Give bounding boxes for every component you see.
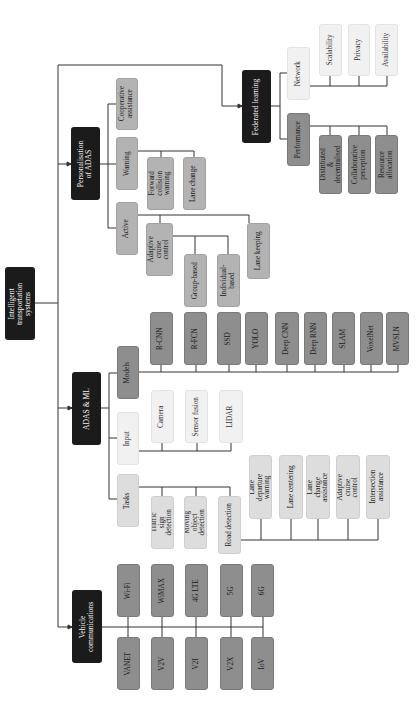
task-moving-object-label: Moving object detection (184, 509, 207, 535)
vehicle-comm-node: Vehicle communications (72, 590, 102, 663)
personalisation-node: Personalisation of ADAS (71, 127, 100, 200)
input-node: Input (117, 412, 139, 465)
comm-iov: IoV (251, 637, 274, 690)
comm-5g: 5G (220, 564, 243, 617)
forward-collision-label: Forward collision warning (149, 171, 172, 196)
comm-v2i: V2I (185, 637, 208, 690)
models-label: Models (124, 362, 132, 384)
personalisation-label: Personalisation of ADAS (78, 140, 94, 186)
resource-allocation-node: Resource allocation (375, 135, 398, 194)
comm-4g-lte: 4G LTE (185, 564, 208, 617)
road-intersection: Intersection assistance (366, 455, 390, 519)
active-label: Active (123, 219, 131, 238)
resource-allocation-label: Resource allocation (379, 150, 394, 178)
input-lidar-label: LIDAR (227, 406, 235, 428)
network-label: Network (295, 61, 303, 86)
comm-iov-label: IoV (259, 658, 267, 669)
input-label: Input (124, 431, 132, 446)
availability-label: Availability (383, 33, 391, 67)
federated-node: Federated learning (242, 70, 271, 143)
task-road-detection-label: Road detection (226, 503, 234, 546)
task-road-detection: Road detection (218, 496, 241, 554)
road-lane-centering: Lane centering (279, 455, 303, 519)
model-voxelnet: VoxelNet (360, 312, 383, 365)
road-intersection-label: Intersection assistance (370, 470, 385, 504)
input-camera: Camera (151, 390, 174, 443)
scalability-label: Scalability (327, 35, 335, 66)
road-lane-departure-label: Lane departure warning (249, 473, 272, 500)
cooperative-label: Cooperative assistance (119, 86, 134, 121)
privacy-label: Privacy (355, 39, 363, 61)
model-voxelnet-label: VoxelNet (368, 325, 376, 352)
warning-node: Warning (116, 137, 138, 190)
collaborative-label: Collaborative perception (352, 145, 367, 184)
input-camera-label: Camera (159, 405, 167, 427)
adaptive-cruise-label: Adaptive cruise control (148, 236, 171, 262)
road-adaptive-cruise: Adaptive cruise control (336, 455, 360, 519)
performance-node: Performance (287, 113, 310, 166)
models-node: Models (117, 346, 139, 399)
model-mvsln: MVSLN (386, 312, 409, 365)
task-moving-object: Moving object detection (184, 496, 207, 549)
comm-wimax-label: WiMAX (159, 578, 167, 603)
scalability-node: Scalability (319, 24, 342, 76)
group-based-label: Group-based (192, 262, 200, 299)
lane-change-label: Lane change (191, 165, 199, 202)
model-deep-cnn: Deep CNN (275, 312, 299, 365)
comm-v2v: V2V (151, 637, 174, 690)
tasks-label: Tasks (124, 492, 132, 508)
model-ssd: SSD (217, 312, 241, 365)
model-deep-rnn: Deep RNN (304, 312, 327, 365)
adas-ml-node: ADAS & ML (72, 372, 101, 445)
federated-label: Federated learning (253, 78, 261, 135)
model-yolo-label: YOLO (253, 329, 261, 349)
lane-keeping-node: Lane keeping (247, 223, 270, 279)
comm-vanet-label: VANET (125, 652, 133, 675)
road-lane-change-label: Lane change assistance (307, 473, 330, 502)
vehicle-comm-label: Vehicle communications (79, 601, 95, 651)
distributed-node: Distributed & decentralised (319, 135, 342, 194)
distributed-label: Distributed & decentralised (319, 146, 342, 184)
road-lane-departure: Lane departure warning (249, 455, 272, 519)
tasks-node: Tasks (117, 474, 139, 527)
comm-6g: 6G (251, 564, 274, 617)
lane-keeping-label: Lane keeping (255, 232, 263, 271)
input-sensor-fusion-label: Sensor fusion (193, 397, 201, 436)
comm-v2x-label: V2X (228, 657, 236, 671)
performance-label: Performance (295, 121, 303, 158)
comm-v2v-label: V2V (159, 657, 167, 671)
model-slam: SLAM (332, 312, 355, 365)
model-yolo: YOLO (245, 312, 268, 365)
comm-4g-lte-label: 4G LTE (193, 579, 201, 602)
root-node: Intelligent transportation systems (5, 267, 35, 340)
lane-change-node: Lane change (183, 157, 206, 210)
forward-collision-node: Forward collision warning (147, 157, 174, 210)
task-traffic-sign: Traffic sign detection (151, 496, 174, 549)
connector-lines (0, 0, 419, 727)
availability-node: Availability (375, 24, 398, 76)
comm-v2i-label: V2I (193, 658, 201, 669)
active-node: Active (116, 202, 138, 255)
input-lidar: LIDAR (219, 390, 243, 443)
model-rcnn-label: R-CNN (158, 327, 166, 349)
adas-ml-label: ADAS & ML (83, 388, 91, 430)
model-mvsln-label: MVSLN (394, 326, 402, 351)
its-taxonomy-diagram: Intelligent transportation systems Perso… (0, 0, 419, 727)
road-lane-change: Lane change assistance (306, 455, 330, 519)
individual-based-node: Individual-based (217, 254, 240, 307)
comm-wifi: Wi-Fi (117, 564, 140, 617)
group-based-node: Group-based (184, 254, 207, 307)
model-rfcn: R-FCN (184, 312, 207, 365)
adaptive-cruise-node: Adaptive cruise control (146, 223, 173, 276)
model-deep-cnn-label: Deep CNN (283, 322, 291, 354)
input-sensor-fusion: Sensor fusion (185, 390, 208, 443)
warning-label: Warning (123, 151, 131, 176)
root-label: Intelligent transportation systems (8, 282, 32, 324)
comm-wimax: WiMAX (151, 564, 174, 617)
individual-based-label: Individual-based (221, 265, 236, 297)
cooperative-node: Cooperative assistance (116, 78, 138, 130)
model-deep-rnn-label: Deep RNN (312, 322, 320, 354)
model-rfcn-label: R-FCN (192, 328, 200, 349)
comm-v2x: V2X (220, 637, 243, 690)
collaborative-node: Collaborative perception (348, 135, 371, 194)
